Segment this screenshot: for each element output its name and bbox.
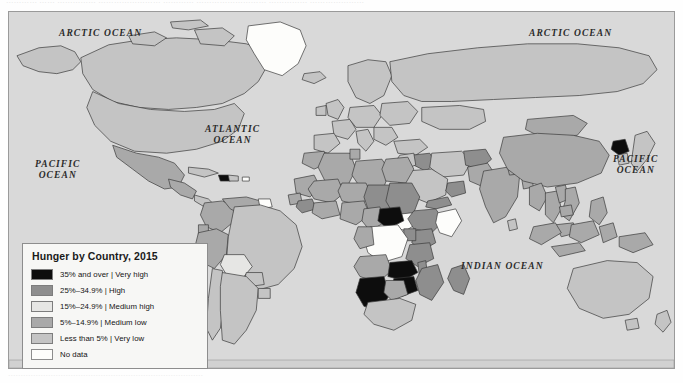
country-puerto-rico xyxy=(242,177,249,181)
legend-items: 35% and over | Very high25%–34.9% | High… xyxy=(31,267,199,361)
country-tunisia xyxy=(350,149,360,159)
legend-row-no-data: No data xyxy=(31,347,199,361)
legend-swatch-medium-low xyxy=(31,317,53,328)
legend-swatch-very-low xyxy=(31,333,53,344)
legend-swatch-high xyxy=(31,285,53,296)
top-cutoff-text: ………… …… …………… …………………… ………… ……………………… ……… xyxy=(0,0,683,11)
country-tasmania xyxy=(625,318,639,330)
legend-label-medium-low: 5%–14.9% | Medium low xyxy=(60,318,147,327)
map-legend: Hunger by Country, 2015 35% and over | V… xyxy=(22,243,208,369)
legend-label-no-data: No data xyxy=(60,350,88,359)
legend-label-very-low: Less than 5% | Very low xyxy=(60,334,144,343)
country-kazakhstan xyxy=(422,105,486,129)
country-uruguay xyxy=(258,288,270,298)
country-ireland xyxy=(316,105,326,115)
legend-label-medium-high: 15%–24.9% | Medium high xyxy=(60,302,154,311)
country-sri-lanka xyxy=(508,219,518,231)
country-south-korea xyxy=(617,153,629,165)
country-cambodia xyxy=(559,205,573,217)
country-dominican-republic xyxy=(228,175,238,181)
legend-swatch-very-high xyxy=(31,269,53,280)
map-page: ………… …… …………… …………………… ………… ……………………… ……… xyxy=(0,0,683,383)
bottom-cutoff-text: …………………………………………………………………… xyxy=(0,372,683,383)
legend-swatch-no-data xyxy=(31,349,53,360)
legend-label-very-high: 35% and over | Very high xyxy=(60,270,148,279)
legend-row-high: 25%–34.9% | High xyxy=(31,283,199,297)
legend-row-very-high: 35% and over | Very high xyxy=(31,267,199,281)
legend-row-very-low: Less than 5% | Very low xyxy=(31,331,199,345)
legend-row-medium-low: 5%–14.9% | Medium low xyxy=(31,315,199,329)
legend-swatch-medium-high xyxy=(31,301,53,312)
legend-label-high: 25%–34.9% | High xyxy=(60,286,125,295)
legend-title: Hunger by Country, 2015 xyxy=(32,250,199,262)
legend-row-medium-high: 15%–24.9% | Medium high xyxy=(31,299,199,313)
